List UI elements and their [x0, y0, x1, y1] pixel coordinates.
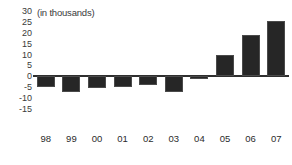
- x-axis: 98990001020304050607: [33, 133, 289, 149]
- bar: [165, 76, 183, 91]
- x-axis-tick-label: 01: [110, 133, 136, 145]
- y-axis-tick-label: -15: [0, 105, 32, 114]
- bar: [267, 21, 285, 77]
- bar: [216, 55, 234, 77]
- y-axis-tick-label: -10: [0, 94, 32, 103]
- bar-chart: (in thousands) 302520151050-5-10-15 9899…: [0, 0, 292, 165]
- x-axis-tick-label: 00: [84, 133, 110, 145]
- bar: [190, 76, 208, 78]
- y-axis-tick-label: -5: [0, 83, 32, 92]
- x-axis-tick-label: 02: [135, 133, 161, 145]
- bar: [62, 76, 80, 91]
- bar: [37, 76, 55, 87]
- x-axis-tick-label: 03: [161, 133, 187, 145]
- x-axis-tick-label: 98: [33, 133, 59, 145]
- x-axis-tick-label: 05: [212, 133, 238, 145]
- bar: [114, 76, 132, 87]
- bar: [242, 35, 260, 76]
- plot-area: [33, 11, 289, 109]
- y-axis-tick-label: 15: [0, 39, 32, 48]
- x-axis-tick-label: 06: [238, 133, 264, 145]
- bar: [139, 76, 157, 85]
- x-axis-tick-label: 07: [263, 133, 289, 145]
- y-axis-tick-label: 25: [0, 17, 32, 26]
- y-axis-tick-label: 30: [0, 7, 32, 16]
- y-axis-tick-label: 20: [0, 28, 32, 37]
- y-axis-tick-label: 10: [0, 50, 32, 59]
- y-axis-tick-label: 0: [0, 72, 32, 81]
- y-axis: 302520151050-5-10-15: [0, 11, 32, 109]
- x-axis-tick-label: 04: [187, 133, 213, 145]
- bar: [88, 76, 106, 88]
- x-axis-tick-label: 99: [59, 133, 85, 145]
- y-axis-tick-label: 5: [0, 61, 32, 70]
